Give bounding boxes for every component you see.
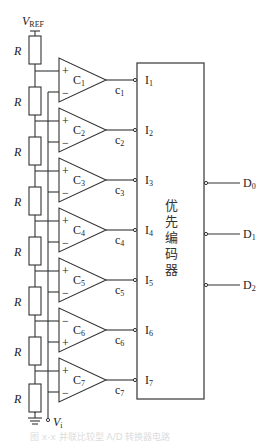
svg-text:先: 先 — [165, 214, 178, 229]
output-label: c4 — [115, 233, 124, 248]
comparator-c5: + − C5 c5 — [35, 258, 137, 302]
resistor-label-6: R — [13, 295, 22, 309]
resistor-label-2: R — [13, 95, 22, 109]
resistor-label-1: R — [13, 44, 22, 58]
plus-sign: + — [62, 164, 69, 178]
encoder-title: 优 先 编 码 器 — [165, 198, 178, 277]
resistor-label-8: R — [13, 392, 22, 406]
minus-sign: − — [62, 314, 69, 328]
minus-sign: − — [62, 86, 69, 100]
vi-label: Vi — [53, 415, 63, 430]
output-label: c6 — [115, 333, 124, 348]
svg-text:器: 器 — [165, 262, 178, 277]
ground-icon — [28, 412, 42, 424]
vref-label: VREF — [22, 14, 45, 29]
resistor-label-5: R — [13, 245, 22, 259]
resistor-label-7: R — [13, 345, 22, 359]
output-d1: D1 — [204, 227, 255, 242]
resistor-1 — [29, 36, 41, 64]
output-label: c3 — [115, 183, 124, 198]
resistor-2 — [29, 87, 41, 115]
plus-sign: + — [62, 64, 69, 78]
resistor-label-4: R — [13, 195, 22, 209]
svg-text:D2: D2 — [243, 278, 256, 293]
plus-sign: + — [62, 336, 69, 350]
resistor-label-3: R — [13, 145, 22, 159]
minus-sign: − — [62, 136, 69, 150]
comparator-c7: + − C7 c7 — [35, 358, 137, 402]
svg-text:D0: D0 — [243, 176, 256, 191]
output-d0: D0 — [204, 176, 255, 191]
svg-text:编: 编 — [165, 230, 178, 245]
vref-terminal: VREF — [22, 14, 45, 36]
resistor-4 — [29, 187, 41, 215]
minus-sign: − — [62, 386, 69, 400]
resistor-3 — [29, 137, 41, 165]
minus-sign: − — [62, 286, 69, 300]
output-label: c1 — [115, 83, 124, 98]
resistor-8 — [29, 384, 41, 412]
flash-adc-circuit-diagram: VREF R R R R R R R R Vi — [0, 0, 269, 442]
comparator-c4: + − C4 c4 — [35, 208, 137, 252]
resistor-7 — [29, 337, 41, 365]
resistor-6 — [29, 287, 41, 315]
output-label: c7 — [115, 383, 124, 398]
comparator-c3: + − C3 c3 — [35, 158, 137, 202]
output-d2: D2 — [204, 278, 255, 293]
plus-sign: + — [62, 264, 69, 278]
svg-text:码: 码 — [165, 246, 178, 261]
plus-sign: + — [62, 114, 69, 128]
resistor-ladder: R R R R R R R R — [13, 36, 41, 412]
resistor-5 — [29, 237, 41, 265]
output-label: c2 — [115, 133, 124, 148]
svg-text:D1: D1 — [243, 227, 256, 242]
output-label: c5 — [115, 283, 124, 298]
encoder-outputs: D0 D1 D2 — [204, 176, 255, 293]
plus-sign: + — [62, 214, 69, 228]
minus-sign: − — [62, 186, 69, 200]
comparator-c6: − + C6 c6 — [35, 308, 137, 352]
priority-encoder-block: I1 I2 I3 I4 I5 I6 I7 优 先 编 码 器 — [137, 63, 204, 399]
plus-sign: + — [62, 364, 69, 378]
comparator-c2: + − C2 c2 — [35, 108, 137, 152]
figure-caption: 图 x-x 并联比较型 A/D 转换器电路 — [30, 431, 170, 442]
minus-sign: − — [62, 236, 69, 250]
comparator-c1: + − C1 c1 — [35, 58, 137, 102]
svg-text:优: 优 — [165, 198, 178, 213]
